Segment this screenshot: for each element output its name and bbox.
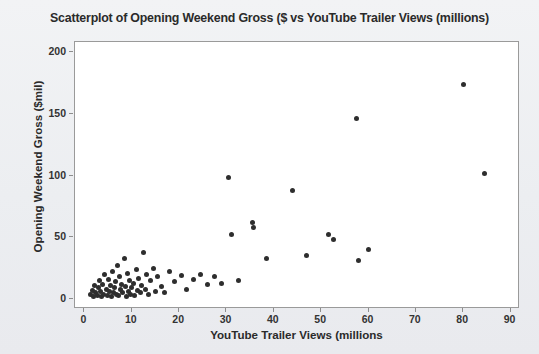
x-tick-mark xyxy=(462,308,463,312)
y-tick-label: 200 xyxy=(48,45,66,57)
scatter-point xyxy=(159,284,164,289)
scatter-point xyxy=(205,282,210,287)
x-axis-label: YouTube Trailer Views (millions xyxy=(74,328,519,341)
scatter-point xyxy=(290,188,295,193)
x-tick-label: 80 xyxy=(456,313,468,325)
scatter-point xyxy=(162,290,167,295)
scatter-point xyxy=(198,272,203,277)
scatter-point xyxy=(482,171,487,176)
scatter-point xyxy=(153,289,158,294)
scatter-point xyxy=(229,232,234,237)
x-tick-mark xyxy=(273,308,274,312)
scatter-point xyxy=(172,279,177,284)
x-tick-label: 10 xyxy=(125,313,137,325)
scatter-point xyxy=(212,274,217,279)
x-tick-label: 40 xyxy=(267,313,279,325)
scatter-point xyxy=(138,290,143,295)
x-tick-mark xyxy=(83,308,84,312)
scatter-point xyxy=(110,269,115,274)
scatter-point xyxy=(148,278,153,283)
scatter-point xyxy=(141,250,146,255)
x-tick-label: 60 xyxy=(362,313,374,325)
x-tick-mark xyxy=(131,308,132,312)
scatter-point xyxy=(151,266,156,271)
y-tick-mark xyxy=(69,113,73,114)
x-tick-mark xyxy=(225,308,226,312)
x-tick-label: 30 xyxy=(220,313,232,325)
chart-title: Scatterplot of Opening Weekend Gross ($ … xyxy=(0,11,539,25)
scatter-point xyxy=(143,287,148,292)
x-tick-label: 50 xyxy=(314,313,326,325)
scatter-point xyxy=(136,276,141,281)
scatter-point xyxy=(331,237,336,242)
scatter-point xyxy=(100,282,105,287)
x-tick-mark xyxy=(510,308,511,312)
scatter-point xyxy=(236,278,241,283)
scatter-point xyxy=(125,271,130,276)
scatter-point xyxy=(115,263,120,268)
y-tick-mark xyxy=(69,298,73,299)
scatter-point xyxy=(122,256,127,261)
scatter-point xyxy=(132,293,137,298)
y-tick-label: 100 xyxy=(48,169,66,181)
scatter-point xyxy=(106,277,111,282)
scatter-points-layer xyxy=(75,42,518,307)
scatter-point xyxy=(461,82,466,87)
scatter-point xyxy=(184,287,189,292)
scatter-point xyxy=(112,285,117,290)
x-tick-mark xyxy=(415,308,416,312)
scatter-point xyxy=(179,273,184,278)
scatter-point xyxy=(113,279,118,284)
scatter-point xyxy=(131,281,136,286)
scatter-point xyxy=(155,274,160,279)
scatter-point xyxy=(326,232,331,237)
scatter-point xyxy=(251,225,256,230)
y-tick-label: 0 xyxy=(60,292,66,304)
y-tick-mark xyxy=(69,51,73,52)
scatter-point xyxy=(354,116,359,121)
scatter-point xyxy=(117,274,122,279)
x-tick-label: 90 xyxy=(504,313,516,325)
scatter-point xyxy=(304,253,309,258)
scatterplot-figure: Scatterplot of Opening Weekend Gross ($ … xyxy=(0,0,539,354)
scatter-point xyxy=(129,285,134,290)
scatter-point xyxy=(102,272,107,277)
x-tick-mark xyxy=(368,308,369,312)
y-axis-label: Opening Weekend Gross ($mil) xyxy=(31,37,44,297)
x-tick-label: 70 xyxy=(409,313,421,325)
x-tick-label: 0 xyxy=(81,313,87,325)
scatter-point xyxy=(167,269,172,274)
scatter-point xyxy=(144,272,149,277)
y-tick-label: 50 xyxy=(54,230,66,242)
scatter-point xyxy=(366,247,371,252)
x-tick-label: 20 xyxy=(172,313,184,325)
scatter-point xyxy=(146,292,151,297)
scatter-point xyxy=(134,267,139,272)
scatter-point xyxy=(264,256,269,261)
x-tick-mark xyxy=(320,308,321,312)
y-tick-label: 150 xyxy=(48,107,66,119)
y-tick-mark xyxy=(69,236,73,237)
y-tick-mark xyxy=(69,175,73,176)
scatter-point xyxy=(191,277,196,282)
scatter-point xyxy=(226,175,231,180)
scatter-point xyxy=(356,258,361,263)
plot-area xyxy=(74,41,519,308)
scatter-point xyxy=(219,281,224,286)
x-tick-mark xyxy=(178,308,179,312)
